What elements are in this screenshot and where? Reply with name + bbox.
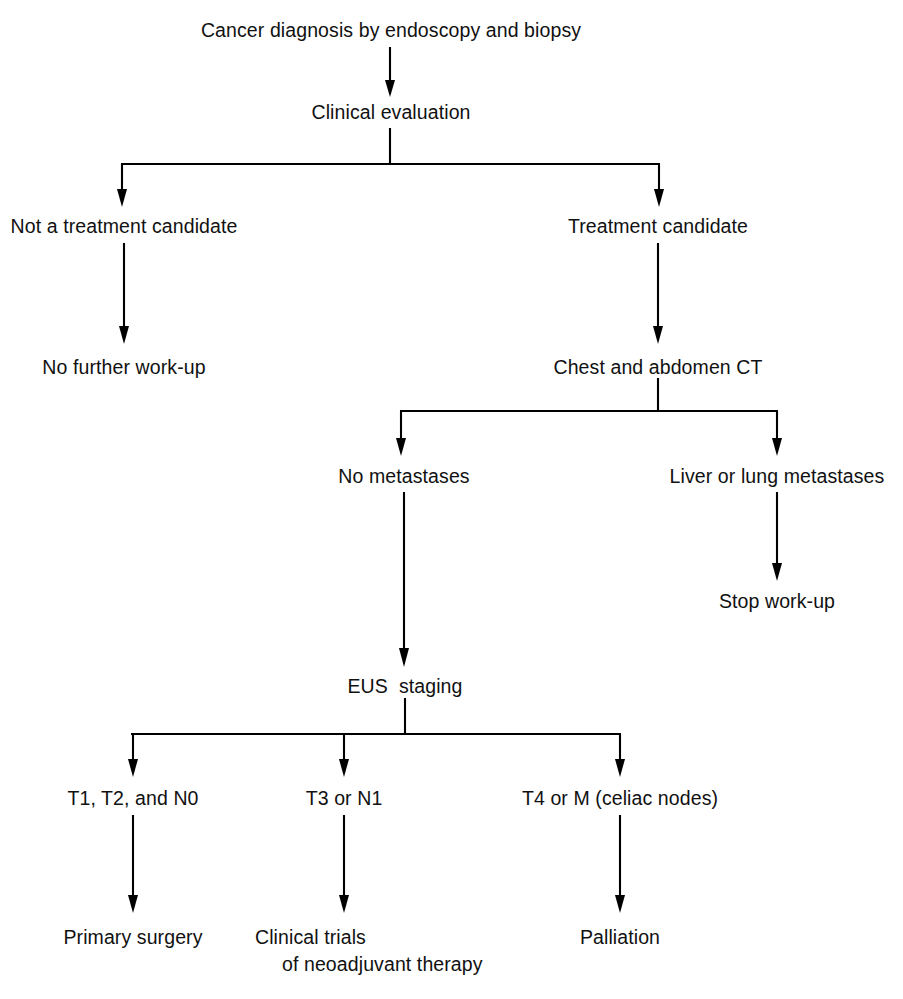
connector-layer	[0, 0, 903, 999]
node-primary-surgery: Primary surgery	[63, 925, 202, 949]
node-clinical-trials-line1: Clinical trials	[255, 925, 366, 949]
connector-no-metastases-to-eus	[399, 492, 409, 667]
node-cancer-diagnosis: Cancer diagnosis by endoscopy and biopsy	[201, 18, 581, 42]
connector-t1t2n0-to-primary-surgery	[128, 815, 138, 913]
node-stage-t1-t2-n0: T1, T2, and N0	[67, 786, 198, 810]
connector-treatment-candidate-to-ct	[653, 243, 663, 344]
connector-ct-split	[396, 378, 782, 456]
node-eus-staging: EUS staging	[347, 674, 462, 698]
node-liver-or-lung-metastases: Liver or lung metastases	[670, 464, 885, 488]
node-palliation: Palliation	[580, 925, 660, 949]
node-stage-t3-n1: T3 or N1	[306, 786, 383, 810]
connector-liver-lung-to-stop-workup	[772, 492, 782, 581]
node-chest-and-abdomen-ct: Chest and abdomen CT	[553, 355, 762, 379]
node-stop-work-up: Stop work-up	[719, 589, 835, 613]
flowchart-diagram: Cancer diagnosis by endoscopy and biopsy…	[0, 0, 903, 999]
node-stage-t4-m-celiac-nodes: T4 or M (celiac nodes)	[522, 786, 718, 810]
connector-eus-split	[128, 698, 625, 777]
node-treatment-candidate: Treatment candidate	[568, 214, 748, 238]
node-clinical-evaluation: Clinical evaluation	[311, 100, 470, 124]
connector-t4m-to-palliation	[615, 815, 625, 913]
node-no-further-work-up: No further work-up	[42, 355, 205, 379]
connector-not-candidate-to-no-further-workup	[119, 243, 129, 344]
node-clinical-trials-line2: of neoadjuvant therapy	[282, 952, 483, 976]
connector-start-to-clinical-evaluation	[385, 47, 395, 97]
connector-t3n1-to-clinical-trials	[339, 815, 349, 913]
connector-clinical-evaluation-split	[117, 128, 664, 207]
node-no-metastases: No metastases	[338, 464, 469, 488]
node-not-a-treatment-candidate: Not a treatment candidate	[11, 214, 238, 238]
